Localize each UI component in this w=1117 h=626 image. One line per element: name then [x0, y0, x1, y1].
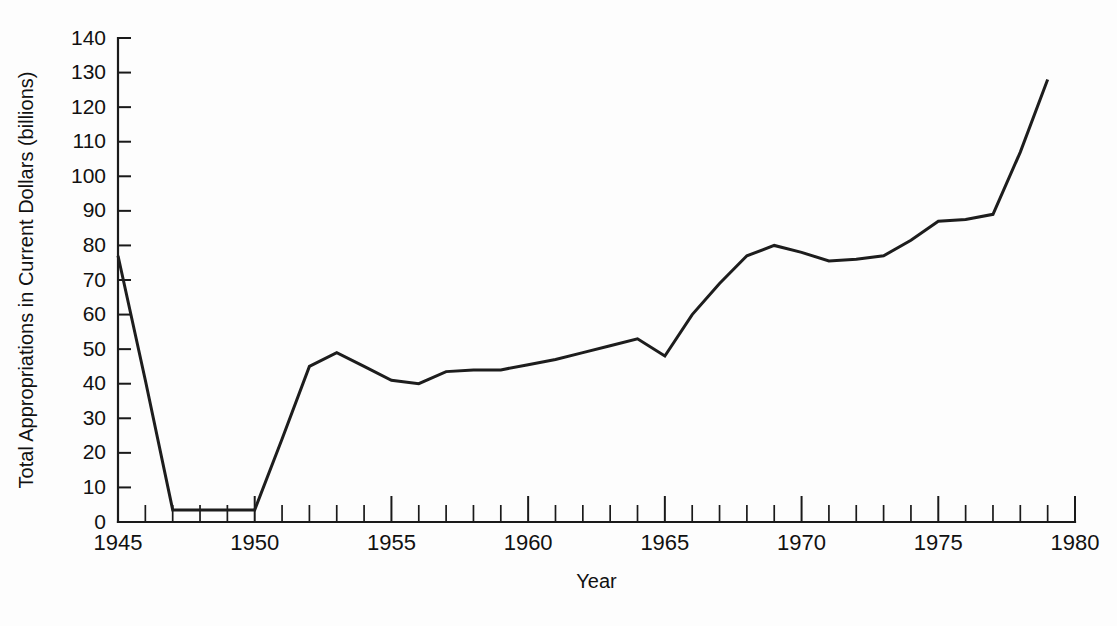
y-tick-label: 40 — [83, 371, 106, 394]
y-tick-label: 140 — [71, 26, 106, 49]
y-axis-title: Total Appropriations in Current Dollars … — [15, 72, 37, 489]
x-tick-label: 1960 — [504, 530, 553, 555]
x-tick-label: 1955 — [367, 530, 416, 555]
y-tick-label: 110 — [73, 129, 106, 152]
x-tick-label: 1950 — [230, 530, 279, 555]
data-series-group — [118, 79, 1048, 509]
x-tick-label: 1970 — [777, 530, 826, 555]
x-tick-label: 1975 — [914, 530, 963, 555]
y-tick-label: 90 — [83, 198, 106, 221]
y-tick-label: 20 — [83, 440, 106, 463]
y-tick-label: 10 — [83, 475, 106, 498]
x-tick-label: 1980 — [1051, 530, 1100, 555]
y-tick-label: 50 — [83, 337, 106, 360]
y-tick-label: 100 — [71, 164, 106, 187]
x-axis-title: Year — [576, 570, 617, 592]
x-tick-label: 1965 — [640, 530, 689, 555]
y-tick-label: 70 — [83, 268, 106, 291]
line-chart: 0102030405060708090100110120130140 19451… — [0, 0, 1117, 626]
y-tick-label: 130 — [71, 60, 106, 83]
x-axis: 19451950195519601965197019751980 — [94, 496, 1100, 555]
data-line-total-appropriations — [118, 79, 1048, 509]
y-tick-label: 120 — [71, 95, 106, 118]
chart-page: 0102030405060708090100110120130140 19451… — [0, 0, 1117, 626]
y-tick-label: 60 — [83, 302, 106, 325]
y-tick-label: 30 — [83, 406, 106, 429]
x-tick-label: 1945 — [94, 530, 143, 555]
y-tick-label: 80 — [83, 233, 106, 256]
